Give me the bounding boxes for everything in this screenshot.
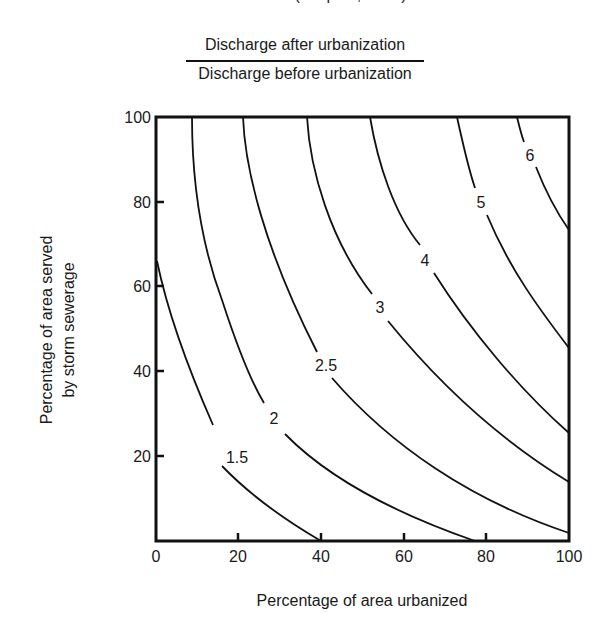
x-tick-0: 0 [152, 548, 161, 565]
x-axis-title: Percentage of area urbanized [257, 592, 468, 609]
contour-labels: 1.5 2 2.5 3 4 5 6 [226, 147, 535, 466]
contour-line-2-5 [243, 117, 569, 533]
y-tick-100: 100 [124, 109, 151, 126]
contour-label-5: 5 [477, 194, 486, 211]
x-tick-labels: 0 20 40 60 80 100 [152, 548, 583, 565]
contour-label-2-5: 2.5 [315, 357, 337, 374]
contour-line-3 [307, 117, 569, 482]
y-tick-80: 80 [133, 194, 151, 211]
y-tick-labels: 20 40 60 80 100 [124, 109, 151, 465]
plot-frame [156, 117, 569, 541]
x-tick-80: 80 [477, 548, 495, 565]
y-axis-title-line1: Percentage of area served [38, 236, 55, 425]
contour-label-6: 6 [526, 147, 535, 164]
contour-label-3: 3 [376, 299, 385, 316]
x-tick-100: 100 [556, 548, 583, 565]
contour-label-1-5: 1.5 [226, 449, 248, 466]
x-tick-40: 40 [312, 548, 330, 565]
y-tick-40: 40 [133, 363, 151, 380]
contour-line-4 [370, 117, 569, 433]
contour-line-5 [457, 117, 569, 348]
contour-lines [157, 117, 569, 541]
contour-line-1-5 [157, 261, 321, 541]
x-tick-20: 20 [229, 548, 247, 565]
contour-line-6 [517, 117, 569, 230]
contour-label-4: 4 [421, 252, 430, 269]
x-tick-60: 60 [395, 548, 413, 565]
contour-label-2: 2 [270, 410, 279, 427]
y-tick-20: 20 [133, 448, 151, 465]
y-axis-title-line2: by storm sewerage [60, 262, 77, 397]
y-axis-title: Percentage of area served by storm sewer… [38, 236, 77, 425]
contour-chart: 20 40 60 80 100 0 20 40 60 80 100 1.5 2 … [0, 0, 614, 635]
y-tick-60: 60 [133, 278, 151, 295]
